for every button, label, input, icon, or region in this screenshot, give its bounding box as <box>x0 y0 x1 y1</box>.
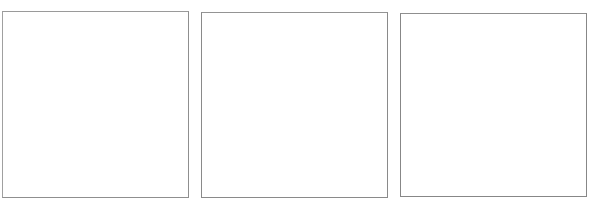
panel-row <box>0 0 595 208</box>
panel-3[interactable] <box>400 13 587 197</box>
panel-2[interactable] <box>201 12 388 198</box>
panel-1-body <box>3 12 188 197</box>
panel-1[interactable] <box>2 11 189 198</box>
panel-3-body <box>401 14 586 196</box>
panel-2-body <box>202 13 387 197</box>
screen-root <box>0 0 595 208</box>
